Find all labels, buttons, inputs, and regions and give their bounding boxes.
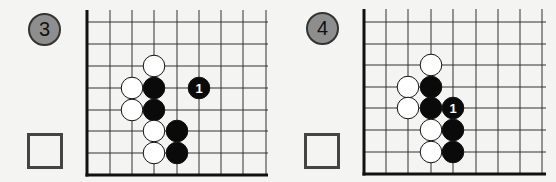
black-stone: 1	[442, 97, 464, 119]
white-stone	[397, 97, 419, 119]
black-stone	[143, 99, 165, 121]
white-stone	[397, 76, 419, 98]
move-number: 1	[195, 81, 202, 96]
black-stone	[420, 97, 442, 119]
black-stone	[442, 119, 464, 141]
white-stone	[420, 119, 442, 141]
go-boards: 1 1	[0, 0, 556, 182]
white-stone	[143, 55, 165, 77]
white-stone	[143, 142, 165, 164]
black-stone	[166, 142, 188, 164]
go-board-problem-3: 1	[86, 10, 269, 177]
white-stone	[420, 54, 442, 76]
black-stone: 1	[188, 77, 210, 99]
white-stone	[121, 99, 143, 121]
black-stone	[442, 141, 464, 163]
go-board-problem-4: 1	[363, 9, 547, 176]
black-stone	[143, 77, 165, 99]
black-stone	[420, 76, 442, 98]
move-number: 1	[449, 101, 456, 116]
black-stone	[166, 120, 188, 142]
white-stone	[121, 77, 143, 99]
white-stone	[420, 141, 442, 163]
white-stone	[143, 120, 165, 142]
